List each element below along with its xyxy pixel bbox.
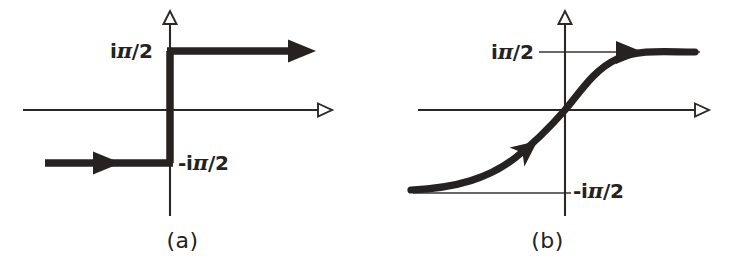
upper-level-label-a-prefix: i: [110, 39, 117, 63]
upper-level-label-b-prefix: i: [491, 40, 498, 64]
upper-level-label-b-pi: π: [498, 39, 513, 64]
lower-level-label-a-pi: π: [193, 150, 208, 175]
panel-a: iπ/2 -iπ/2 (a): [0, 0, 365, 276]
panel-b: iπ/2 -iπ/2 (b): [365, 0, 730, 276]
upper-level-label-a-suffix: /2: [132, 39, 153, 63]
upper-level-label-b-suffix: /2: [513, 40, 534, 64]
right-tail-arrowhead-b: [616, 41, 644, 64]
lower-ray-arrowhead-a: [93, 152, 121, 175]
lower-level-label-b-suffix: /2: [603, 179, 624, 203]
lower-level-label-b: -iπ/2: [573, 180, 624, 201]
y-axis-arrowhead-a: [164, 11, 177, 24]
lower-level-label-b-prefix: -i: [573, 179, 588, 203]
lower-level-label-a-suffix: /2: [208, 151, 229, 175]
caption-a: (a): [0, 228, 365, 253]
upper-level-label-a: iπ/2: [110, 40, 153, 61]
y-axis-arrowhead-b: [559, 11, 572, 24]
x-axis-arrowhead-a: [318, 104, 332, 117]
upper-level-label-a-pi: π: [117, 38, 132, 63]
figure-container: iπ/2 -iπ/2 (a) iπ/2: [0, 0, 730, 276]
upper-ray-arrowhead-a: [288, 40, 316, 63]
lower-level-label-b-pi: π: [588, 178, 603, 203]
x-axis-arrowhead-b: [695, 104, 709, 117]
sigmoid-curve-b: [411, 52, 695, 190]
lower-level-label-a: -iπ/2: [178, 152, 229, 173]
caption-b: (b): [365, 228, 730, 253]
lower-level-label-a-prefix: -i: [178, 151, 193, 175]
upper-level-label-b: iπ/2: [491, 41, 534, 62]
